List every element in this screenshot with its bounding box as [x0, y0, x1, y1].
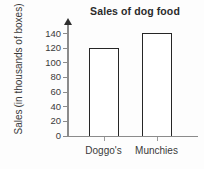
- y-tick-mark: [63, 106, 68, 107]
- y-tick-mark: [63, 33, 68, 34]
- y-tick-label: 100: [21, 57, 61, 68]
- y-tick-mark: [63, 77, 68, 78]
- y-axis-arrow-icon: [64, 18, 72, 25]
- y-tick-label: 120: [21, 42, 61, 53]
- y-tick-mark: [63, 121, 68, 122]
- y-tick-label: 0: [21, 130, 61, 141]
- y-tick-label: 60: [21, 86, 61, 97]
- y-tick-label: 80: [21, 71, 61, 82]
- y-tick-mark: [63, 136, 68, 137]
- bar-munchies: [142, 33, 172, 136]
- x-tick-mark: [104, 137, 105, 141]
- plot-area: 020406080100120140 Doggo'sMunchies: [0, 0, 204, 169]
- x-axis-line: [67, 136, 198, 137]
- y-tick-label: 40: [21, 101, 61, 112]
- y-tick-label: 20: [21, 115, 61, 126]
- x-tick-mark: [157, 137, 158, 141]
- y-tick-mark: [63, 62, 68, 63]
- y-tick-label: 140: [21, 28, 61, 39]
- bar-chart: Sales of dog food Sales (in thousands of…: [0, 0, 204, 169]
- y-tick-mark: [63, 92, 68, 93]
- bar-doggo-s: [89, 48, 119, 136]
- x-tick-label: Munchies: [122, 145, 192, 156]
- y-tick-mark: [63, 48, 68, 49]
